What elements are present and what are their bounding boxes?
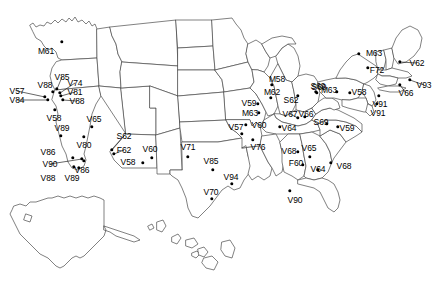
site-label: V66 (299, 110, 314, 119)
site-label: V94 (224, 173, 239, 182)
site-label: V60 (143, 145, 158, 154)
site-label: F60 (289, 159, 303, 168)
site-label: V67 (283, 110, 298, 119)
site-label: V93 (417, 81, 432, 90)
site-label: V57 (229, 123, 244, 132)
site-label: V80 (77, 141, 92, 150)
site-label: V89 (55, 124, 70, 133)
site-label: S69 (311, 82, 326, 91)
site-label: V59 (242, 99, 257, 108)
site-label: M62 (264, 88, 280, 97)
site-label: M63 (366, 49, 382, 58)
site-label: S62 (117, 132, 132, 141)
site-label: V89 (65, 174, 80, 183)
site-label: V64 (311, 165, 326, 174)
site-label: V60 (252, 121, 267, 130)
site-label: V90 (288, 196, 303, 205)
site-label: S69 (314, 118, 329, 127)
site-label: V68 (337, 162, 352, 171)
site-label: V88 (70, 97, 85, 106)
site-label: V70 (204, 188, 219, 197)
site-label: V91 (371, 109, 386, 118)
site-label: V86 (41, 148, 56, 157)
site-label: V88 (38, 81, 53, 90)
site-label: V85 (204, 157, 219, 166)
site-label: V58 (47, 114, 62, 123)
site-label: V59 (340, 124, 355, 133)
us-sites-map-figure: M61V57V88V85V74V81V88V84V58V89V65V80V86V… (0, 0, 437, 299)
site-label: V62 (410, 59, 425, 68)
site-label: M63 (242, 109, 258, 118)
site-label-layer: M61V57V88V85V74V81V88V84V58V89V65V80V86V… (0, 0, 437, 299)
site-label: V84 (10, 96, 25, 105)
site-label: V71 (181, 143, 196, 152)
site-label: V68 (282, 147, 297, 156)
site-label: M58 (269, 75, 285, 84)
site-label: V90 (43, 160, 58, 169)
site-label: V58 (352, 88, 367, 97)
site-label: V65 (302, 144, 317, 153)
site-label: F62 (117, 146, 131, 155)
site-label: V88 (41, 174, 56, 183)
site-label: F72 (370, 66, 384, 75)
site-label: V58 (121, 158, 136, 167)
site-label: M61 (38, 47, 54, 56)
site-label: V64 (282, 124, 297, 133)
site-label: V76 (251, 143, 266, 152)
site-label: S62 (284, 96, 299, 105)
site-label: V66 (399, 89, 414, 98)
site-label: V65 (87, 115, 102, 124)
